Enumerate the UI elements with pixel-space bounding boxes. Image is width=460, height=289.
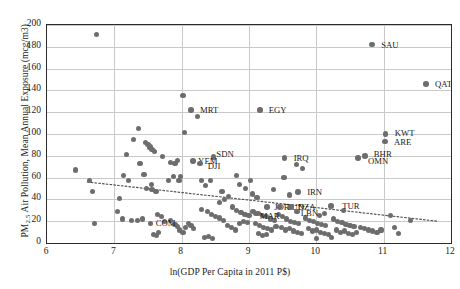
- trend-line: [47, 25, 451, 243]
- data-point: [221, 218, 226, 223]
- data-point: [137, 161, 142, 166]
- data-point: [73, 167, 78, 172]
- data-point: [178, 174, 183, 179]
- y-tick-label: 100: [11, 127, 41, 137]
- data-point-labeled: [295, 189, 301, 195]
- data-point: [219, 189, 224, 194]
- data-point: [329, 235, 334, 240]
- data-point: [354, 230, 359, 235]
- data-point-labeled: [294, 209, 300, 215]
- point-label: IRN: [307, 188, 322, 197]
- data-point: [378, 227, 383, 232]
- data-point: [140, 216, 145, 221]
- point-label: DJI: [208, 162, 221, 171]
- data-point: [287, 192, 292, 197]
- point-label: LBN: [301, 209, 318, 218]
- y-tick-label: 120: [11, 105, 41, 115]
- point-label: TUR: [342, 202, 359, 211]
- data-point-labeled: [190, 158, 196, 164]
- data-point: [396, 231, 401, 236]
- data-point-labeled: [355, 155, 361, 161]
- data-point: [90, 189, 95, 194]
- data-point: [271, 187, 276, 192]
- data-point: [120, 216, 125, 221]
- data-point: [233, 227, 238, 232]
- point-label: MRT: [200, 106, 218, 115]
- data-point: [264, 232, 269, 237]
- point-label: MAR: [260, 212, 280, 221]
- y-tick-label: 160: [11, 62, 41, 72]
- point-label: COM: [156, 219, 176, 228]
- y-tick-label: 140: [11, 83, 41, 93]
- data-point-labeled: [362, 153, 368, 159]
- data-point-labeled: [328, 203, 334, 209]
- data-point-labeled: [264, 204, 270, 210]
- data-point: [92, 221, 97, 226]
- point-label: ARE: [394, 138, 411, 147]
- data-point-labeled: [277, 204, 283, 210]
- x-axis-title: ln(GDP Per Capita in 2011 P$): [0, 267, 460, 277]
- y-tick-label: 20: [11, 214, 41, 224]
- y-tick-label: 40: [11, 192, 41, 202]
- data-point: [408, 218, 413, 223]
- plot-area: SAUQATMRTEGYKWTAREBHROMNSDNYEMDJIIRQIRNT…: [46, 24, 452, 244]
- point-label: SAU: [381, 41, 398, 50]
- data-point: [149, 182, 154, 187]
- y-axis-title-rest: Air Pollution, Mean Annual Exposure (mcg…: [20, 24, 30, 215]
- point-label: SDN: [216, 150, 233, 159]
- x-tick-label: 11: [368, 246, 398, 256]
- data-point-labeled: [423, 81, 429, 87]
- point-label: EGY: [269, 106, 287, 115]
- x-tick-label: 9: [233, 246, 263, 256]
- data-point: [273, 224, 278, 229]
- data-point: [299, 231, 304, 236]
- data-point-labeled: [197, 161, 203, 167]
- data-point-labeled: [288, 204, 294, 210]
- point-label: QAT: [435, 80, 452, 89]
- data-point: [281, 175, 286, 180]
- data-point: [141, 172, 146, 177]
- data-point: [351, 224, 356, 229]
- data-point-labeled: [257, 107, 263, 113]
- x-tick-label: 10: [300, 246, 330, 256]
- data-point-labeled: [188, 107, 194, 113]
- point-label: IRQ: [294, 154, 309, 163]
- data-point: [237, 182, 242, 187]
- x-tick-label: 12: [435, 246, 460, 256]
- x-tick-label: 7: [98, 246, 128, 256]
- data-point: [254, 195, 259, 200]
- y-tick-label: 0: [11, 236, 41, 246]
- scatter-chart: PM2.5 Air Pollution, Mean Annual Exposur…: [0, 0, 460, 289]
- data-point: [246, 213, 251, 218]
- data-point-labeled: [253, 211, 259, 217]
- data-point: [153, 189, 158, 194]
- y-tick-label: 200: [11, 18, 41, 28]
- point-label: OMN: [368, 157, 388, 166]
- data-point: [180, 230, 185, 235]
- y-tick-label: 80: [11, 149, 41, 159]
- y-tick-label: 180: [11, 40, 41, 50]
- x-tick-label: 8: [166, 246, 196, 256]
- x-tick-label: 6: [31, 246, 61, 256]
- data-point: [175, 158, 180, 163]
- y-tick-label: 60: [11, 171, 41, 181]
